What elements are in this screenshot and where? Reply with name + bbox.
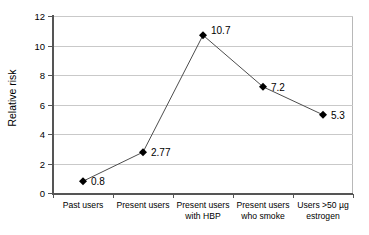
data-point-value-label: 5.3	[331, 109, 345, 120]
data-point-marker[interactable]	[319, 111, 327, 119]
data-series	[0, 0, 369, 235]
data-point-marker[interactable]	[79, 177, 87, 185]
data-point-marker[interactable]	[139, 148, 147, 156]
series-line	[83, 35, 323, 181]
data-point-value-label: 0.8	[91, 176, 105, 187]
data-point-value-label: 10.7	[211, 25, 230, 36]
data-point-value-label: 2.77	[151, 147, 170, 158]
data-point-value-label: 7.2	[271, 81, 285, 92]
chart-container: Relative risk 024681012 Past usersPresen…	[0, 0, 369, 235]
